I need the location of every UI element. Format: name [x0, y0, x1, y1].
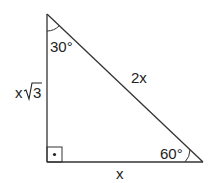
- right-angle-arc-icon: [185, 150, 190, 162]
- base-label: x: [116, 165, 124, 182]
- top-angle-arc-icon: [47, 26, 59, 31]
- hypotenuse-side: [47, 14, 203, 162]
- right-angle-label: 60°: [160, 145, 183, 162]
- top-angle-label: 30°: [50, 38, 73, 55]
- right-angle-dot-icon: [53, 153, 56, 156]
- hypotenuse-label: 2x: [131, 69, 147, 86]
- vertical-side-label: x 3: [15, 83, 42, 101]
- vertical-side-prefix: x: [15, 84, 23, 101]
- vertical-side-radicand: 3: [33, 84, 41, 101]
- triangle-diagram: 30° 60° 2x x x 3: [0, 0, 216, 183]
